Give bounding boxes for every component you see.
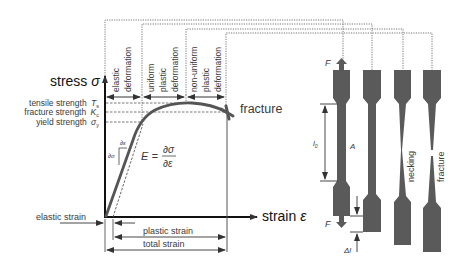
slope-d-epsilon: ∂ε bbox=[120, 140, 126, 146]
modulus-formula: E = ∂σ ∂ε bbox=[141, 144, 176, 169]
slope-d-sigma: ∂σ bbox=[108, 153, 115, 159]
region-uniform-line1: uniform bbox=[146, 64, 156, 92]
connector-elastic bbox=[105, 20, 343, 95]
specimens bbox=[333, 70, 441, 252]
yield-strength-label: yield strength σy bbox=[36, 117, 99, 128]
region-nonuniform-line3: deformation bbox=[213, 47, 223, 92]
gauge-length-dimension bbox=[320, 104, 338, 181]
region-uniform-line3: deformation bbox=[170, 47, 180, 92]
specimen-uniform bbox=[363, 70, 381, 232]
necking-label: necking bbox=[406, 151, 416, 182]
area-label: A bbox=[349, 142, 355, 151]
strength-labels: tensile strength Ts fracture strength Kc… bbox=[24, 98, 99, 128]
x-axis-label: strain ε bbox=[262, 208, 307, 224]
plastic-strain-label: plastic strain bbox=[143, 226, 193, 236]
elongation-dimension bbox=[350, 196, 363, 252]
specimen-fracture-top bbox=[423, 70, 441, 150]
specimen-original bbox=[333, 70, 350, 216]
force-label-top: F bbox=[325, 58, 331, 68]
gauge-length-label: l0 bbox=[313, 139, 318, 149]
y-axis-label: stress σ bbox=[50, 73, 100, 89]
region-dividers bbox=[142, 95, 186, 122]
region-labels: elastic deformation uniform plastic defo… bbox=[111, 47, 223, 92]
force-up-arrow-icon bbox=[336, 58, 347, 70]
specimen-fracture-label: fracture bbox=[436, 151, 446, 182]
region-elastic-line2: deformation bbox=[123, 47, 133, 92]
region-elastic-line1: elastic bbox=[111, 67, 121, 92]
region-nonuniform-line2: plastic bbox=[201, 67, 211, 92]
fracture-label: fracture bbox=[240, 102, 282, 116]
stress-strain-diagram: elastic deformation uniform plastic defo… bbox=[0, 0, 469, 267]
unloading-line bbox=[113, 124, 143, 217]
svg-text:∂σ: ∂σ bbox=[163, 144, 175, 155]
elastic-strain-label: elastic strain bbox=[36, 212, 86, 222]
force-label-bottom: F bbox=[325, 219, 331, 229]
region-uniform-line2: plastic bbox=[158, 67, 168, 92]
total-strain-label: total strain bbox=[143, 239, 185, 249]
force-down-arrow-icon bbox=[336, 216, 347, 228]
region-nonuniform-line1: non-uniform bbox=[189, 47, 199, 92]
elongation-label: Δl bbox=[343, 246, 351, 255]
svg-text:E =: E = bbox=[141, 150, 158, 162]
svg-text:∂ε: ∂ε bbox=[163, 158, 173, 169]
